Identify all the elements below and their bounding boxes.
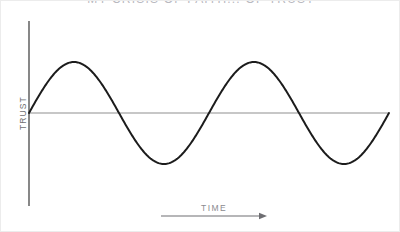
y-axis-label: TRUST <box>18 91 28 135</box>
x-axis-label: TIME <box>161 203 267 213</box>
time-arrow-head <box>259 213 267 219</box>
plot-area <box>1 1 400 232</box>
chart-canvas: MY CRISIS OF FAITH... OF TRUST TRUST TIM… <box>0 0 400 232</box>
